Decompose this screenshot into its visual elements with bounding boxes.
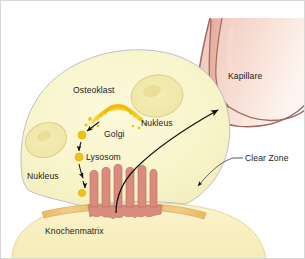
diagram-canvas: Osteoklast Nukleus Golgi Lysosom Nukleus… [0,0,305,259]
label-kapillare: Kapillare [228,71,262,81]
label-nukleus-right: Nukleus [141,118,173,128]
ruffled-finger-6 [150,169,157,207]
ruffled-finger-5 [138,165,146,207]
ruffled-finger-1 [90,170,98,207]
label-clear-zone: Clear Zone [245,153,289,163]
lysosome-vesicle [75,153,83,161]
golgi-dot-4 [97,125,100,128]
golgi-dot-2 [84,123,87,126]
ruffled-finger-3 [114,164,122,207]
ruffled-finger-2 [102,167,110,207]
golgi-dot-7 [138,127,141,130]
ruffled-finger-4 [126,167,134,207]
vesicle-1 [78,131,86,139]
label-golgi: Golgi [104,129,125,139]
label-nukleus-left: Nukleus [27,171,59,181]
vesicle-3 [78,189,85,196]
golgi-dot-8 [132,125,134,127]
label-knochenmatrix: Knochenmatrix [45,226,104,236]
golgi-dot-1 [88,117,92,121]
label-osteoklast: Osteoklast [73,85,115,95]
osteoclast-diagram: Osteoklast Nukleus Golgi Lysosom Nukleus… [0,0,305,259]
label-lysosom: Lysosom [86,152,121,162]
